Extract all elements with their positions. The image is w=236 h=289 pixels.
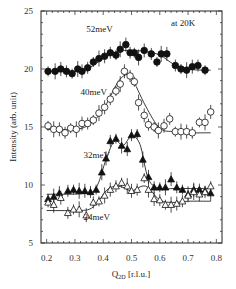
data-point xyxy=(69,70,76,77)
data-point xyxy=(135,99,142,106)
data-point xyxy=(134,131,141,137)
data-point xyxy=(124,183,131,189)
data-point xyxy=(202,119,209,126)
y-tick-label: 25 xyxy=(24,6,34,16)
data-point xyxy=(189,130,196,137)
data-point xyxy=(195,62,202,69)
fit-curve-40meV xyxy=(47,74,211,133)
data-point xyxy=(73,126,80,133)
data-point xyxy=(166,116,173,123)
data-point xyxy=(117,46,124,53)
data-point xyxy=(151,196,158,202)
series-label-40meV: 40meV xyxy=(81,87,108,97)
data-point xyxy=(127,73,134,80)
data-point xyxy=(162,184,169,190)
data-point xyxy=(93,186,100,192)
y-tick-label: 15 xyxy=(24,122,34,132)
data-point xyxy=(173,184,180,190)
data-point xyxy=(141,112,148,119)
data-point xyxy=(96,110,103,117)
data-point xyxy=(107,96,114,103)
data-point xyxy=(154,59,161,66)
data-point xyxy=(113,88,120,95)
y-tick-label: 10 xyxy=(24,180,34,190)
temperature-annotation: at 20K xyxy=(171,18,196,28)
data-point xyxy=(131,78,138,85)
x-tick-label: 0.4 xyxy=(98,253,110,263)
data-point xyxy=(81,187,88,193)
data-point xyxy=(179,198,186,204)
data-point xyxy=(56,190,63,196)
series-label-24meV: 24meV xyxy=(83,212,110,222)
data-point xyxy=(118,179,125,185)
data-point xyxy=(101,104,108,111)
data-point xyxy=(164,51,171,58)
data-point xyxy=(168,176,175,182)
data-point xyxy=(202,67,209,74)
data-point xyxy=(207,109,214,116)
data-point xyxy=(96,198,103,204)
x-tick-label: 0.6 xyxy=(154,253,166,263)
x-tick-label: 0.2 xyxy=(41,253,52,263)
chart: 0.20.30.40.50.60.70.8510152025 52meV40me… xyxy=(0,0,236,289)
data-point xyxy=(45,68,52,75)
data-point xyxy=(113,52,120,59)
data-point xyxy=(123,41,130,48)
y-axis-label: Intensity (arb. unit) xyxy=(8,92,18,162)
data-point xyxy=(207,183,214,189)
series-label-52meV: 52meV xyxy=(86,24,113,34)
x-tick-label: 0.8 xyxy=(211,253,223,263)
data-point xyxy=(155,127,162,134)
x-axis-label: Q2D [r.l.u.] xyxy=(112,269,150,280)
data-point xyxy=(161,123,168,130)
data-point xyxy=(139,156,146,162)
data-point xyxy=(98,169,105,175)
data-point xyxy=(84,65,91,72)
data-point xyxy=(62,130,69,137)
data-point xyxy=(141,47,148,54)
data-point xyxy=(121,68,128,75)
data-point xyxy=(113,135,120,141)
x-tick-label: 0.5 xyxy=(126,253,138,263)
y-tick-label: 5 xyxy=(29,238,34,248)
data-point xyxy=(76,206,83,212)
series-label-32meV: 32meV xyxy=(83,150,110,160)
data-point xyxy=(135,54,142,61)
data-point xyxy=(124,146,131,152)
data-point xyxy=(90,117,97,124)
data-point xyxy=(70,186,77,192)
x-tick-label: 0.3 xyxy=(69,253,81,263)
series-24meV xyxy=(45,173,214,222)
y-tick-label: 20 xyxy=(24,64,34,74)
data-point xyxy=(117,81,124,88)
data-point xyxy=(148,51,155,58)
x-tick-label: 0.7 xyxy=(182,253,194,263)
